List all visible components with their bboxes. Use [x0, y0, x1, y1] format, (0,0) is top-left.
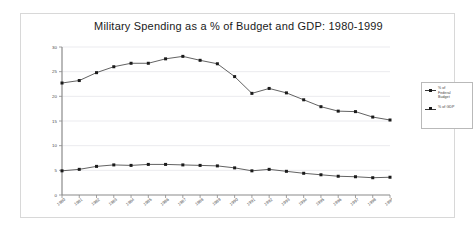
svg-text:1993: 1993 [280, 197, 291, 207]
svg-text:1987: 1987 [177, 197, 188, 207]
svg-text:1981: 1981 [73, 197, 84, 207]
svg-text:1998: 1998 [367, 197, 378, 207]
legend-marker-icon [425, 106, 436, 113]
data-series-group [61, 55, 392, 179]
legend-item-gdp[interactable]: % of GDP [425, 105, 470, 113]
svg-text:0: 0 [55, 193, 58, 198]
plot-area: 051015202530 198019811982198319841985198… [42, 39, 392, 212]
svg-text:1989: 1989 [211, 197, 222, 207]
chart-card: Military Spending as a % of Budget and G… [20, 13, 455, 218]
chart-title: Military Spending as a % of Budget and G… [56, 20, 421, 32]
svg-text:1995: 1995 [315, 197, 326, 207]
svg-text:25: 25 [52, 69, 57, 74]
svg-text:1996: 1996 [332, 197, 343, 207]
svg-text:1997: 1997 [349, 197, 360, 207]
svg-text:1990: 1990 [228, 197, 239, 207]
y-axis-labels: 051015202530 [52, 45, 57, 198]
chart-legend: % of Federal Budget % of GDP [421, 82, 473, 129]
legend-label: % of GDP [438, 105, 454, 110]
svg-text:30: 30 [52, 45, 57, 50]
svg-text:1984: 1984 [125, 197, 136, 207]
svg-text:1992: 1992 [263, 197, 274, 207]
svg-text:5: 5 [55, 168, 58, 173]
svg-text:20: 20 [52, 94, 57, 99]
x-axis-labels: 1980198119821983198419851986198719881989… [56, 197, 392, 207]
legend-label: % of Federal Budget [438, 86, 451, 100]
svg-text:1991: 1991 [246, 197, 257, 207]
svg-text:15: 15 [52, 119, 57, 124]
svg-text:1994: 1994 [298, 197, 309, 207]
svg-text:1986: 1986 [159, 197, 170, 207]
svg-text:1983: 1983 [108, 197, 119, 207]
svg-text:1999: 1999 [384, 197, 392, 207]
legend-item-federal-budget[interactable]: % of Federal Budget [425, 86, 470, 100]
gridlines [62, 47, 390, 170]
svg-text:1982: 1982 [90, 197, 101, 207]
line-chart-svg: 051015202530 198019811982198319841985198… [42, 39, 392, 212]
svg-text:1980: 1980 [56, 197, 67, 207]
legend-marker-icon [425, 87, 436, 94]
svg-text:10: 10 [52, 143, 57, 148]
svg-text:1988: 1988 [194, 197, 205, 207]
svg-text:1985: 1985 [142, 197, 153, 207]
